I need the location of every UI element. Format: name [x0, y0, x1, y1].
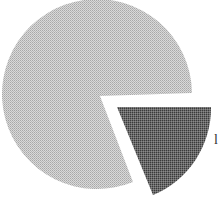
slice-b-label: l — [214, 133, 218, 147]
pie-chart — [0, 0, 218, 198]
